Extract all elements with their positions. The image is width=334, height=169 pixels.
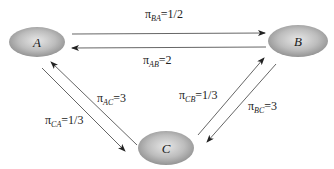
- edge-b-to-a-arrow: [72, 47, 266, 48]
- transition-diagram: A B C πBA=1/2 πAB=2 πAC=3 πCA=1/3 πCB=1/…: [0, 0, 334, 169]
- node-c: C: [138, 131, 194, 165]
- edge-label-ba: πBA=1/2: [145, 7, 183, 23]
- edge-label-ac: πAC=3: [97, 91, 126, 107]
- node-a: A: [9, 27, 65, 57]
- node-b: B: [268, 25, 328, 57]
- edge-label-bc: πBC=3: [248, 99, 277, 115]
- node-b-label: B: [294, 34, 302, 49]
- edge-a-to-c-arrow: [42, 68, 125, 151]
- edge-label-ab: πAB=2: [143, 53, 172, 69]
- edge-a-to-b-arrow: [72, 33, 265, 34]
- node-a-label: A: [32, 35, 41, 50]
- node-c-label: C: [162, 141, 171, 156]
- edge-label-cb: πCB=1/3: [179, 88, 217, 104]
- edge-label-ca: πCA=1/3: [45, 113, 83, 129]
